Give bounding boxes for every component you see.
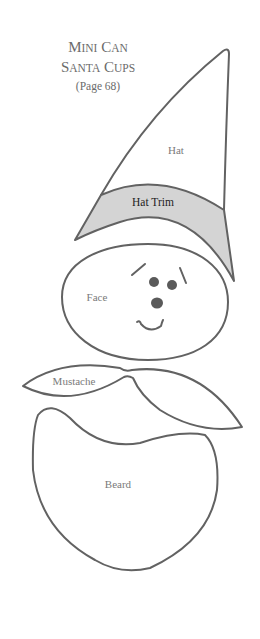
face-label: Face	[87, 291, 108, 303]
right-eye-icon	[167, 280, 177, 290]
right-brow-icon	[180, 268, 186, 283]
left-eye-icon	[149, 277, 159, 287]
hat-label: Hat	[168, 144, 184, 156]
beard-label: Beard	[105, 478, 132, 490]
left-brow-icon	[132, 264, 145, 275]
santa-pattern: Hat Hat Trim Face Mustache Beard	[0, 0, 260, 639]
mustache-label: Mustache	[53, 375, 96, 387]
nose-icon	[151, 298, 163, 309]
hat-trim-label: Hat Trim	[132, 196, 174, 208]
smile-icon	[137, 320, 163, 330]
